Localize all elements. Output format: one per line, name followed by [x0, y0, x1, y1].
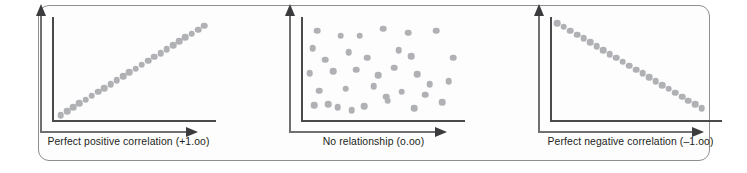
plot-x-axis [301, 120, 465, 122]
panel-perfect-positive: Perfect positive correlation (+1.oo) [0, 0, 249, 173]
x-axis-line [289, 131, 437, 133]
data-point [567, 27, 574, 34]
up-arrow-icon [534, 4, 544, 16]
plot-area-no-relationship [301, 17, 465, 122]
y-axis-line [538, 14, 540, 133]
data-point [361, 103, 368, 110]
data-point [325, 101, 332, 108]
correlation-figure: Perfect positive correlation (+1.oo) No … [0, 0, 747, 173]
data-point [375, 72, 382, 79]
data-point [427, 81, 434, 88]
data-point [395, 47, 402, 54]
x-axis-line [538, 131, 694, 133]
data-point [450, 55, 457, 62]
y-axis-line [40, 14, 42, 133]
data-point [380, 25, 387, 32]
data-point [398, 89, 405, 96]
x-axis-line [40, 131, 188, 133]
data-point [322, 57, 329, 64]
panel-caption-positive: Perfect positive correlation (+1.oo) [4, 136, 253, 147]
data-point [606, 51, 613, 58]
data-point [391, 64, 398, 71]
data-point [408, 53, 415, 60]
data-point [593, 43, 600, 50]
data-point [600, 47, 607, 54]
data-point [414, 71, 421, 78]
data-point [626, 62, 633, 69]
data-point [633, 66, 640, 73]
panel-perfect-negative: Perfect negative correlation (–1.oo) [498, 0, 747, 173]
data-point [356, 32, 363, 39]
data-point [692, 101, 699, 108]
data-point [306, 70, 313, 77]
data-point [349, 107, 356, 114]
data-point [659, 82, 666, 89]
data-point [405, 29, 412, 36]
panel-caption-none: No relationship (o.oo) [249, 136, 498, 147]
data-point [310, 45, 317, 52]
data-point [383, 93, 390, 100]
data-point [314, 27, 321, 34]
data-point [666, 86, 673, 93]
data-point [672, 89, 679, 96]
data-point [422, 91, 429, 98]
up-arrow-icon [36, 4, 46, 16]
plot-x-axis [52, 120, 216, 122]
y-axis-line [289, 14, 291, 133]
plot-x-axis [550, 120, 722, 122]
data-point [364, 55, 371, 62]
data-point [620, 58, 627, 65]
data-point [679, 93, 686, 100]
data-point [698, 105, 705, 112]
panel-no-relationship: No relationship (o.oo) [249, 0, 498, 173]
data-point [353, 66, 360, 73]
data-point [334, 104, 341, 111]
data-point [201, 23, 208, 30]
data-point [574, 31, 581, 38]
data-point [370, 83, 377, 90]
data-point [554, 20, 561, 27]
data-point [639, 70, 646, 77]
data-point [345, 49, 352, 56]
data-point [652, 78, 659, 85]
plot-y-axis [52, 17, 54, 122]
data-point [338, 32, 345, 39]
data-point [646, 74, 653, 81]
data-point [685, 97, 692, 104]
data-point [316, 88, 323, 95]
data-point [580, 35, 587, 42]
data-point [342, 86, 349, 93]
panel-caption-negative: Perfect negative correlation (–1.oo) [506, 136, 747, 147]
data-point [613, 55, 620, 62]
data-point [561, 24, 568, 31]
data-point [433, 27, 440, 34]
plot-area-perfect-positive [52, 17, 216, 122]
plot-y-axis [550, 17, 552, 122]
data-point [439, 99, 446, 106]
data-point [587, 39, 594, 46]
plot-area-perfect-negative [550, 17, 714, 122]
plot-y-axis [301, 17, 303, 122]
data-point [330, 68, 337, 75]
data-point [311, 102, 318, 109]
data-point [445, 78, 452, 85]
up-arrow-icon [285, 4, 295, 16]
data-point [411, 105, 418, 112]
